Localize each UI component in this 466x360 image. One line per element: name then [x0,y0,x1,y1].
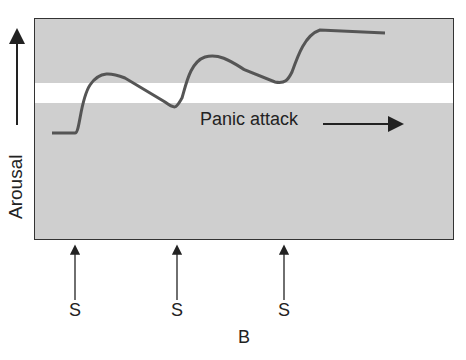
stimulus-label-2: S [171,300,183,321]
panic-attack-label: Panic attack [200,109,298,130]
panel-label: B [238,327,250,348]
stimulus-label-1: S [69,300,81,321]
stimulus-label-3: S [278,300,290,321]
y-axis-label: Arousal [5,159,27,219]
